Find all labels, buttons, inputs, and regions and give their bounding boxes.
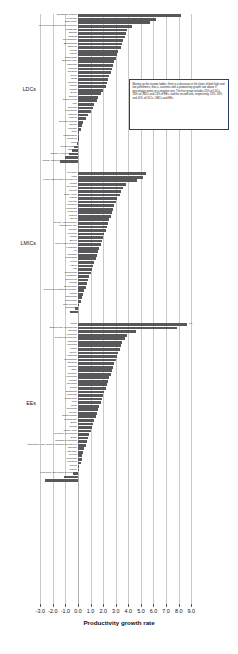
axis-tick-label: 9.0 [187, 608, 195, 614]
axis-tick [153, 604, 154, 607]
axis-tick-label: 2.0 [99, 608, 107, 614]
axis-tick [141, 604, 142, 607]
table-row: Libyan Arab Jamahiriya [0, 479, 238, 483]
axis-tick-label: 0.0 [74, 608, 82, 614]
bar [60, 160, 78, 163]
x-axis-title: Productivity growth rate [0, 619, 238, 626]
group-label-lmics: LMICs [2, 240, 36, 246]
axis-tick [40, 604, 41, 607]
axis-tick-label: 7.0 [162, 608, 170, 614]
axis-tick-label: 3.0 [112, 608, 120, 614]
table-row: Yemen [0, 310, 238, 314]
axis-tick [191, 604, 192, 607]
annotation-box: Moving up the income ladder, there is a … [129, 79, 229, 130]
group-label-ees: EEs [2, 400, 36, 406]
axis-tick [179, 604, 180, 607]
bar-value-label: 8.7 [189, 322, 192, 326]
bar-track [78, 479, 229, 482]
axis-tick-label: 4.0 [125, 608, 133, 614]
axis-tick-label: 6.0 [150, 608, 158, 614]
axis-tick [65, 604, 66, 607]
axis-tick [166, 604, 167, 607]
x-axis: Productivity growth rate -3.0-2.0-1.00.0… [0, 604, 238, 654]
annotation-text: Moving up the income ladder, there is a … [133, 83, 226, 101]
bar-track [78, 311, 229, 314]
table-row: Congo, Democratic Republic of [0, 159, 238, 163]
axis-tick-label: 8.0 [175, 608, 183, 614]
productivity-growth-chart: Equatorial GuineaMyanmarEast TimorLao Pe… [0, 0, 238, 654]
axis-tick-label: -1.0 [61, 608, 70, 614]
bar [45, 479, 78, 482]
axis-tick [116, 604, 117, 607]
axis-tick-label: -3.0 [36, 608, 45, 614]
axis-tick-label: 5.0 [137, 608, 145, 614]
axis-tick [78, 604, 79, 607]
bar [70, 311, 78, 314]
axis-tick-label: 1.0 [87, 608, 95, 614]
axis-tick [53, 604, 54, 607]
category-label: Yemen [5, 310, 77, 314]
axis-tick [91, 604, 92, 607]
axis-tick-label: -2.0 [48, 608, 57, 614]
group-label-ldcs: LDCs [2, 86, 36, 92]
axis-tick [103, 604, 104, 607]
axis-tick [128, 604, 129, 607]
bar-track [78, 160, 229, 163]
